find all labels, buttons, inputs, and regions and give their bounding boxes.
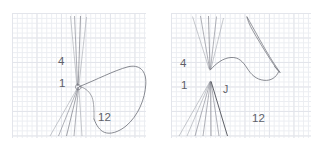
right-narrow-loop bbox=[247, 17, 280, 72]
left-teardrop-loop bbox=[80, 66, 146, 133]
left-diagram-panel: 4 1 12 bbox=[0, 0, 152, 145]
left-lower-ray-fan bbox=[50, 87, 82, 136]
right-label-12: 12 bbox=[252, 113, 265, 125]
right-s-curve bbox=[210, 57, 278, 80]
right-label-j: J bbox=[223, 84, 228, 95]
left-label-1: 1 bbox=[59, 78, 66, 90]
left-label-12: 12 bbox=[98, 112, 111, 124]
right-diagram-panel: 4 1 J 12 bbox=[161, 0, 313, 145]
left-label-4: 4 bbox=[58, 56, 65, 68]
right-label-1: 1 bbox=[181, 80, 188, 92]
right-panel-drawing bbox=[161, 0, 313, 145]
left-panel-drawing bbox=[0, 0, 152, 145]
figure-canvas: 4 1 12 bbox=[0, 0, 313, 145]
right-upper-ray-fan bbox=[193, 16, 224, 70]
right-label-4: 4 bbox=[180, 58, 187, 70]
left-upper-ray-fan bbox=[71, 16, 87, 86]
